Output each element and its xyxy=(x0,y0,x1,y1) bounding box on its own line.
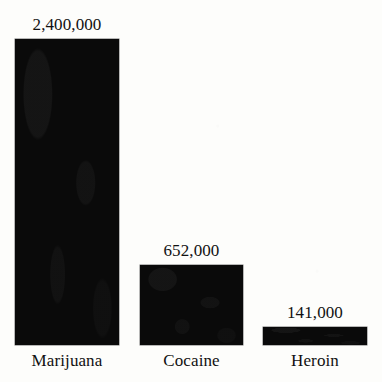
bar-cocaine xyxy=(140,265,243,345)
bar-marijuana xyxy=(15,39,119,345)
bar-heroin xyxy=(263,327,367,345)
plot-area: 2,400,000 Marijuana 652,000 Cocaine 141,… xyxy=(0,0,382,382)
value-label-cocaine: 652,000 xyxy=(140,241,243,261)
category-label-heroin: Heroin xyxy=(258,350,372,371)
bar-chart: 2,400,000 Marijuana 652,000 Cocaine 141,… xyxy=(0,0,382,382)
value-label-marijuana: 2,400,000 xyxy=(15,15,119,35)
category-label-cocaine: Cocaine xyxy=(135,350,248,371)
value-label-heroin: 141,000 xyxy=(263,303,367,323)
category-label-marijuana: Marijuana xyxy=(10,350,124,371)
